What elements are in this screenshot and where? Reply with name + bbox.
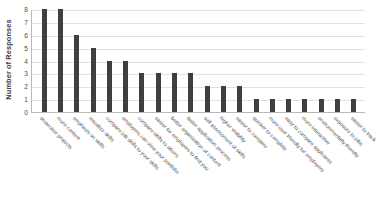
bar[interactable]	[91, 48, 96, 112]
bar[interactable]	[351, 99, 356, 112]
bar-slot	[101, 10, 117, 112]
x-label-slot: easier to track	[346, 114, 362, 211]
x-label-slot: better organization of content	[166, 114, 182, 211]
x-label-slot: more user friendly for employers	[264, 114, 280, 211]
bar-slot	[297, 10, 313, 112]
y-axis-tick-label: 6	[24, 32, 28, 39]
x-label-slot: self assessment of skills	[198, 114, 214, 211]
x-label-slot: employers can view your portfolio	[117, 114, 133, 211]
x-label-slot: faster application process	[182, 114, 198, 211]
x-label-slot: compare job skills to your skills	[100, 114, 116, 211]
bar-slot	[248, 10, 264, 112]
bar[interactable]	[107, 61, 112, 113]
y-axis-title: Number of Responses	[0, 0, 16, 118]
bar-slot	[183, 10, 199, 112]
y-axis-title-text: Number of Responses	[4, 19, 13, 99]
x-axis-tick-labels: showcase projectsmore contentemphasis on…	[31, 114, 365, 211]
bar[interactable]	[188, 73, 193, 112]
x-label-slot: more content	[51, 114, 67, 211]
bar[interactable]	[286, 99, 291, 112]
bar[interactable]	[74, 35, 79, 112]
bar[interactable]	[205, 86, 210, 112]
bar[interactable]	[139, 73, 144, 112]
x-label-slot: quicker to complete	[247, 114, 263, 211]
y-axis-tick-labels: 012345678	[16, 10, 30, 113]
bar-slot	[150, 10, 166, 112]
bar[interactable]	[302, 99, 307, 112]
y-axis-tick-label: 2	[24, 84, 28, 91]
y-axis-tick-label: 7	[24, 20, 28, 27]
plot-area	[31, 10, 365, 113]
x-label-slot: higher visibility	[215, 114, 231, 211]
bar[interactable]	[335, 99, 340, 112]
y-axis-tick-label: 1	[24, 97, 28, 104]
bar[interactable]	[58, 9, 63, 112]
y-axis-tick-label: 3	[24, 71, 28, 78]
bar[interactable]	[156, 73, 161, 112]
bar-slot	[329, 10, 345, 112]
bar[interactable]	[42, 9, 47, 112]
x-label-slot: visualize skills	[84, 114, 100, 211]
x-label-slot: exposure to jobs	[329, 114, 345, 211]
bar-slot	[280, 10, 296, 112]
bar-slot	[313, 10, 329, 112]
bar[interactable]	[270, 99, 275, 112]
bar-series	[32, 10, 365, 112]
bar-slot	[52, 10, 68, 112]
x-label-slot: easier for employers to find you	[149, 114, 165, 211]
bar[interactable]	[172, 73, 177, 112]
bar-slot	[264, 10, 280, 112]
bar-slot	[232, 10, 248, 112]
y-axis-tick-label: 4	[24, 58, 28, 65]
bar[interactable]	[254, 99, 259, 112]
bar[interactable]	[123, 61, 128, 113]
x-label-slot: more interactive	[297, 114, 313, 211]
x-label-slot: easier to compare	[231, 114, 247, 211]
bar[interactable]	[319, 99, 324, 112]
y-axis-tick-label: 8	[24, 7, 28, 14]
bar-slot	[215, 10, 231, 112]
bar[interactable]	[221, 86, 226, 112]
x-label-slot: compare skills to others	[133, 114, 149, 211]
x-label-slot: showcase projects	[35, 114, 51, 211]
bar-slot	[85, 10, 101, 112]
bar-slot	[134, 10, 150, 112]
bar-slot	[166, 10, 182, 112]
y-axis-tick-label: 0	[24, 110, 28, 117]
y-axis-tick-label: 5	[24, 45, 28, 52]
x-axis-tick-label: easier to track	[349, 115, 377, 143]
bar-slot	[36, 10, 52, 112]
x-label-slot: emphasis on skills	[68, 114, 84, 211]
x-label-slot: environmentally friendly	[313, 114, 329, 211]
bar-slot	[69, 10, 85, 112]
bar-slot	[199, 10, 215, 112]
bar[interactable]	[237, 86, 242, 112]
bar-slot	[346, 10, 362, 112]
bar-slot	[117, 10, 133, 112]
x-label-slot: easy to compare applicants	[280, 114, 296, 211]
